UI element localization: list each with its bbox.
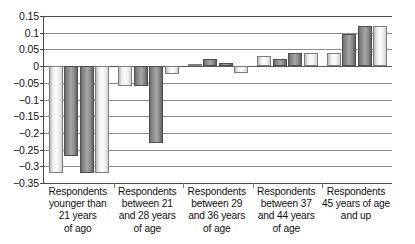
bar [219, 63, 233, 66]
bar [165, 66, 179, 74]
bar [49, 66, 63, 173]
y-axis-tick-mark [40, 183, 44, 184]
y-axis-tick-label: −0.1 [19, 95, 39, 105]
category-label-line: Respondents [253, 186, 321, 198]
category-label-line: Respondents [183, 186, 251, 198]
bar [342, 34, 356, 66]
y-axis-tick-label: −0.3 [19, 161, 39, 171]
x-axis-category-label: Respondentsbetween 29and 36 yearsof age [182, 186, 252, 244]
bar [288, 53, 302, 66]
bar [134, 66, 148, 86]
bar [80, 66, 94, 173]
y-axis-tick-label: −0.05 [13, 78, 39, 88]
y-axis-tick-label: 0.05 [19, 44, 39, 54]
x-axis-category-label: Respondents45 years of ageand up [321, 186, 391, 244]
bar [149, 66, 163, 143]
y-axis-tick-label: 0 [33, 61, 39, 71]
category-label-line: and 36 years [183, 210, 251, 222]
category-label-line: of age [253, 223, 321, 235]
bar [327, 53, 341, 66]
category-label-line: between 29 [183, 198, 251, 210]
x-axis-category-label: Respondentsyounger than21 yearsof ago [43, 186, 113, 244]
category-label-line: between 37 [253, 198, 321, 210]
bar [95, 66, 109, 173]
category-label-line: Respondents [114, 186, 182, 198]
bar [358, 26, 372, 66]
y-axis-tick-labels: 0.150.10.050−0.05−0.1−0.15−0.2−0.25−0.3−… [0, 0, 42, 190]
bar [234, 66, 248, 73]
bar [203, 59, 217, 66]
category-label-line: of age [114, 223, 182, 235]
category-label-line: and 28 years [114, 210, 182, 222]
y-axis-tick-label: −0.25 [13, 145, 39, 155]
gridline [44, 183, 392, 184]
category-label-line: 45 years of age [322, 198, 390, 210]
x-axis-category-labels: Respondentsyounger than21 yearsof agoRes… [43, 186, 391, 244]
x-axis-category-label: Respondentsbetween 37and 44 yearsof age [252, 186, 322, 244]
category-label-line: younger than [44, 198, 112, 210]
category-label-line: Respondents [44, 186, 112, 198]
y-axis-tick-label: 0.15 [19, 11, 39, 21]
bar [257, 56, 271, 66]
category-label-line: between 21 [114, 198, 182, 210]
y-axis-tick-label: −0.15 [13, 111, 39, 121]
plot-area [43, 16, 391, 183]
bar [304, 53, 318, 66]
category-label-line: and 44 years [253, 210, 321, 222]
category-label-line: of ago [44, 223, 112, 235]
bar [118, 66, 132, 86]
bar [188, 64, 202, 66]
category-label-line: of age [183, 223, 251, 235]
bar [64, 66, 78, 156]
x-axis-category-label: Respondentsbetween 21and 28 yearsof age [113, 186, 183, 244]
category-label-line: Respondents [322, 186, 390, 198]
y-axis-tick-label: −0.35 [13, 178, 39, 188]
category-label-line: 21 years [44, 210, 112, 222]
bars-layer [44, 16, 392, 183]
category-label-line: and up [322, 210, 390, 222]
y-axis-tick-label: −0.2 [19, 128, 39, 138]
bar [373, 26, 387, 66]
bar-chart: 0.150.10.050−0.05−0.1−0.15−0.2−0.25−0.3−… [0, 0, 415, 244]
bar [273, 59, 287, 66]
y-axis-tick-label: 0.1 [25, 28, 39, 38]
